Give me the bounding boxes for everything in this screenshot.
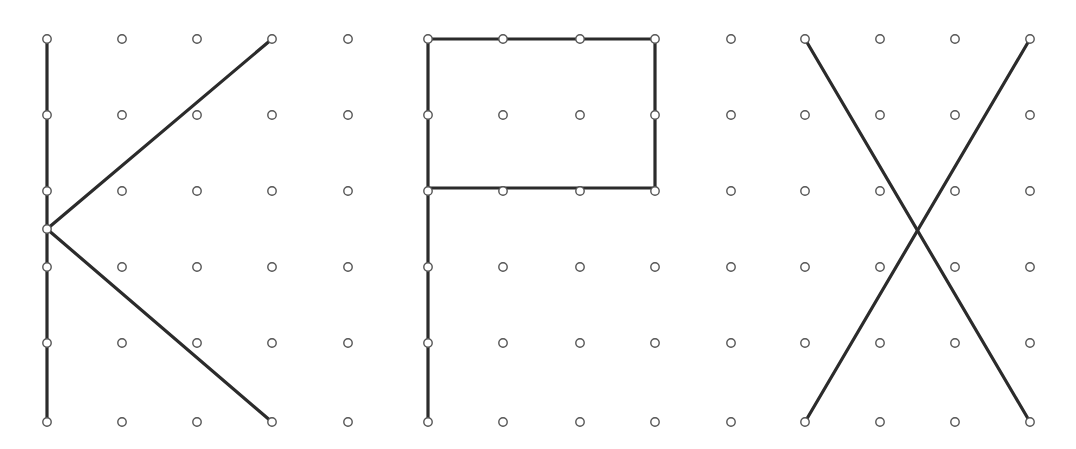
peg[interactable] (499, 35, 507, 43)
peg[interactable] (424, 187, 432, 195)
peg[interactable] (651, 339, 659, 347)
peg[interactable] (499, 263, 507, 271)
peg[interactable] (727, 339, 735, 347)
peg[interactable] (118, 35, 126, 43)
geoboard-svg (0, 0, 1076, 449)
peg[interactable] (193, 187, 201, 195)
peg[interactable] (801, 35, 809, 43)
peg[interactable] (1026, 111, 1034, 119)
peg[interactable] (344, 418, 352, 426)
peg[interactable] (43, 187, 51, 195)
peg[interactable] (951, 187, 959, 195)
peg[interactable] (118, 339, 126, 347)
peg[interactable] (193, 263, 201, 271)
peg[interactable] (268, 187, 276, 195)
peg[interactable] (727, 263, 735, 271)
peg[interactable] (118, 111, 126, 119)
peg[interactable] (876, 418, 884, 426)
peg[interactable] (876, 339, 884, 347)
peg[interactable] (801, 111, 809, 119)
peg[interactable] (1026, 187, 1034, 195)
peg[interactable] (43, 418, 51, 426)
peg[interactable] (801, 418, 809, 426)
peg[interactable] (801, 339, 809, 347)
peg[interactable] (727, 111, 735, 119)
peg[interactable] (118, 263, 126, 271)
peg[interactable] (424, 418, 432, 426)
geoboard-canvas (0, 0, 1076, 449)
peg[interactable] (801, 263, 809, 271)
peg[interactable] (576, 35, 584, 43)
peg[interactable] (193, 339, 201, 347)
peg[interactable] (193, 111, 201, 119)
peg[interactable] (193, 418, 201, 426)
peg[interactable] (268, 339, 276, 347)
peg[interactable] (1026, 339, 1034, 347)
peg[interactable] (344, 339, 352, 347)
peg[interactable] (1026, 263, 1034, 271)
peg[interactable] (876, 187, 884, 195)
peg[interactable] (43, 35, 51, 43)
peg[interactable] (499, 339, 507, 347)
peg[interactable] (651, 111, 659, 119)
peg[interactable] (576, 111, 584, 119)
peg[interactable] (576, 339, 584, 347)
peg[interactable] (727, 35, 735, 43)
peg[interactable] (424, 339, 432, 347)
peg[interactable] (344, 35, 352, 43)
peg[interactable] (268, 263, 276, 271)
peg[interactable] (951, 418, 959, 426)
peg[interactable] (344, 187, 352, 195)
peg[interactable] (424, 111, 432, 119)
peg[interactable] (344, 263, 352, 271)
peg[interactable] (499, 187, 507, 195)
peg[interactable] (499, 418, 507, 426)
peg[interactable] (424, 263, 432, 271)
peg[interactable] (876, 35, 884, 43)
peg[interactable] (651, 418, 659, 426)
peg[interactable] (576, 187, 584, 195)
peg[interactable] (43, 263, 51, 271)
peg[interactable] (43, 339, 51, 347)
peg[interactable] (268, 418, 276, 426)
peg[interactable] (268, 111, 276, 119)
peg[interactable] (727, 187, 735, 195)
peg[interactable] (43, 111, 51, 119)
peg[interactable] (118, 418, 126, 426)
peg[interactable] (268, 35, 276, 43)
peg[interactable] (651, 263, 659, 271)
peg[interactable] (876, 111, 884, 119)
peg[interactable] (424, 35, 432, 43)
peg[interactable] (801, 187, 809, 195)
peg[interactable] (951, 339, 959, 347)
peg[interactable] (1026, 418, 1034, 426)
peg[interactable] (344, 111, 352, 119)
peg[interactable] (193, 35, 201, 43)
peg[interactable] (499, 111, 507, 119)
peg[interactable] (576, 418, 584, 426)
peg[interactable] (651, 35, 659, 43)
peg[interactable] (118, 187, 126, 195)
peg[interactable] (1026, 35, 1034, 43)
peg[interactable] (876, 263, 884, 271)
peg[interactable] (651, 187, 659, 195)
peg[interactable] (576, 263, 584, 271)
peg[interactable] (951, 35, 959, 43)
peg[interactable] (43, 225, 51, 233)
peg[interactable] (727, 418, 735, 426)
peg[interactable] (951, 111, 959, 119)
peg[interactable] (951, 263, 959, 271)
